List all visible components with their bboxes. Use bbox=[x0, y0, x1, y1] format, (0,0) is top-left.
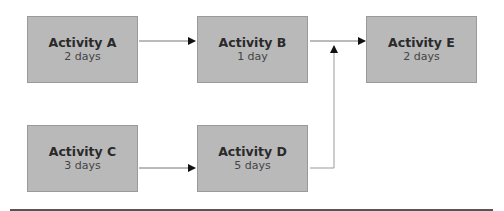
node-duration: 5 days bbox=[234, 159, 270, 172]
node-activity-a: Activity A 2 days bbox=[27, 16, 138, 83]
node-title: Activity C bbox=[49, 145, 116, 159]
node-title: Activity D bbox=[218, 145, 287, 159]
node-duration: 1 day bbox=[237, 50, 268, 63]
node-activity-e: Activity E 2 days bbox=[366, 16, 477, 83]
node-duration: 3 days bbox=[64, 159, 100, 172]
node-title: Activity B bbox=[219, 36, 287, 50]
node-duration: 2 days bbox=[64, 50, 100, 63]
node-title: Activity A bbox=[49, 36, 117, 50]
edge-d-e bbox=[310, 46, 334, 168]
node-activity-b: Activity B 1 day bbox=[197, 16, 308, 83]
node-activity-d: Activity D 5 days bbox=[197, 125, 308, 192]
node-activity-c: Activity C 3 days bbox=[27, 125, 138, 192]
node-title: Activity E bbox=[388, 36, 455, 50]
bottom-divider bbox=[10, 209, 493, 211]
node-duration: 2 days bbox=[403, 50, 439, 63]
